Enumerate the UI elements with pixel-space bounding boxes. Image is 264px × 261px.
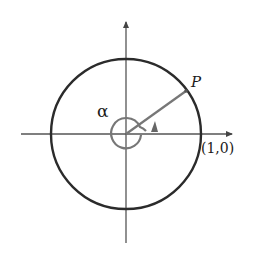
point-p-marker (184, 89, 188, 93)
unit-circle-diagram: α P (1,0) (0, 0, 264, 261)
angle-label-alpha: α (97, 101, 109, 121)
intercept-label: (1,0) (201, 140, 234, 156)
arc-arrowhead-icon (151, 121, 158, 132)
point-label-p: P (190, 73, 202, 91)
